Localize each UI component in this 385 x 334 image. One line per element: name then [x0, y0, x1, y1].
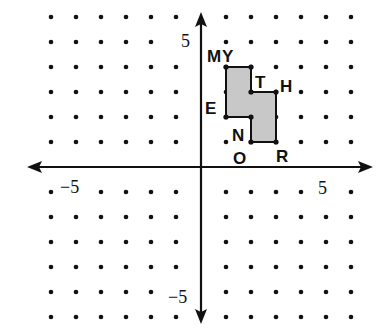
grid-dot	[349, 90, 354, 95]
x-axis-label-neg5: −5	[60, 177, 79, 197]
grid-dot	[224, 290, 229, 295]
grid-dot	[149, 240, 154, 245]
grid-dot	[149, 215, 154, 220]
grid-dot	[49, 65, 54, 70]
grid-dot	[249, 215, 254, 220]
grid-dot	[224, 240, 229, 245]
vertex-dot	[248, 139, 253, 144]
grid-dot	[99, 115, 104, 120]
vertex-dot	[273, 139, 278, 144]
grid-dot	[174, 240, 179, 245]
grid-dot	[124, 115, 129, 120]
grid-dot	[99, 15, 104, 20]
grid-dot	[349, 140, 354, 145]
grid-dot	[299, 265, 304, 270]
vertex-dot	[248, 89, 253, 94]
grid-dot	[349, 40, 354, 45]
grid-dot	[224, 40, 229, 45]
grid-dot	[99, 65, 104, 70]
grid-dot	[274, 65, 279, 70]
grid-dot	[124, 15, 129, 20]
grid-dot	[99, 315, 104, 320]
grid-dot	[349, 15, 354, 20]
grid-dot	[49, 265, 54, 270]
grid-dot	[174, 140, 179, 145]
grid-dot	[99, 40, 104, 45]
grid-dot	[349, 315, 354, 320]
grid-dot	[149, 40, 154, 45]
grid-dot	[124, 265, 129, 270]
grid-dot	[124, 140, 129, 145]
grid-dot	[324, 40, 329, 45]
grid-dot	[324, 65, 329, 70]
coordinate-grid-diagram: −5 5 5 −5 M Y T H E N O R	[0, 0, 385, 334]
grid-dot	[299, 15, 304, 20]
grid-dot	[49, 115, 54, 120]
grid-dot	[124, 215, 129, 220]
grid-dot	[99, 140, 104, 145]
grid-dot	[324, 215, 329, 220]
grid-dot	[274, 315, 279, 320]
grid-dot	[324, 15, 329, 20]
grid-dot	[149, 190, 154, 195]
grid-dot	[149, 290, 154, 295]
grid-dot	[224, 190, 229, 195]
grid-dot	[349, 115, 354, 120]
grid-dot	[149, 115, 154, 120]
grid-dot	[224, 215, 229, 220]
grid-dot	[299, 190, 304, 195]
grid-dot	[174, 90, 179, 95]
grid-dot	[49, 190, 54, 195]
grid-dot	[349, 265, 354, 270]
grid-dot	[299, 90, 304, 95]
grid-dot	[249, 40, 254, 45]
vertex-dot	[273, 89, 278, 94]
grid-dot	[249, 290, 254, 295]
grid-dot	[299, 40, 304, 45]
grid-dot	[349, 65, 354, 70]
grid-dot	[49, 90, 54, 95]
point-label-n: N	[232, 126, 244, 145]
grid-dot	[324, 315, 329, 320]
grid-dot	[299, 140, 304, 145]
grid-dot	[174, 115, 179, 120]
grid-dot	[174, 215, 179, 220]
grid-dot	[99, 215, 104, 220]
grid-dot	[299, 240, 304, 245]
grid-dot	[99, 190, 104, 195]
grid-dot	[74, 290, 79, 295]
grid-dot	[99, 240, 104, 245]
grid-dot	[49, 140, 54, 145]
grid-dot	[174, 15, 179, 20]
grid-dot	[124, 315, 129, 320]
grid-dot	[274, 215, 279, 220]
grid-dot	[299, 65, 304, 70]
grid-dot	[49, 290, 54, 295]
grid-dot	[49, 15, 54, 20]
grid-dot	[124, 65, 129, 70]
grid-dot	[324, 240, 329, 245]
point-label-t: T	[255, 73, 266, 92]
grid-dot	[274, 190, 279, 195]
grid-dot	[149, 315, 154, 320]
x-axis-label-pos5: 5	[318, 178, 327, 198]
grid-dot	[324, 115, 329, 120]
point-label-o: O	[233, 149, 246, 168]
grid-dot	[49, 40, 54, 45]
grid-dot	[349, 290, 354, 295]
point-label-m: M	[207, 47, 221, 66]
grid-dot	[174, 65, 179, 70]
grid-dot	[274, 40, 279, 45]
grid-dot	[74, 265, 79, 270]
grid-dot	[149, 15, 154, 20]
grid-dot	[249, 190, 254, 195]
grid-dot	[74, 140, 79, 145]
grid-dot	[149, 90, 154, 95]
vertex-dot	[248, 64, 253, 69]
y-axis-label-neg5: −5	[168, 287, 187, 307]
grid-dot	[349, 215, 354, 220]
grid-dot	[149, 265, 154, 270]
grid-dot	[99, 265, 104, 270]
grid-dot	[324, 290, 329, 295]
grid-dot	[99, 290, 104, 295]
